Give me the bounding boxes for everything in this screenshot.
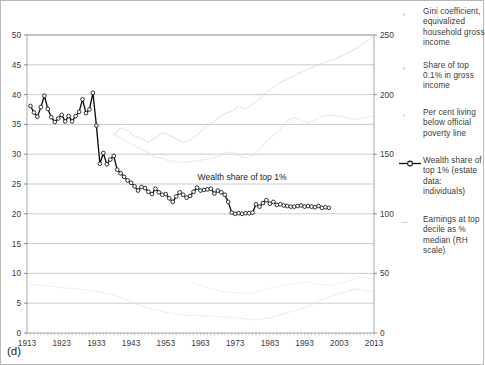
- chart-series-faint: [26, 284, 373, 321]
- legend-item-label: Wealth share of top 1% (estate data: ind…: [423, 156, 485, 198]
- chart-series-markers: [29, 91, 331, 216]
- legend-item[interactable]: Gini coefficient, equivalized household …: [399, 7, 485, 49]
- chart-series-faint: [113, 114, 373, 163]
- faint-dot-marker: [399, 111, 421, 120]
- x-axis-label: 2013: [365, 338, 384, 348]
- y-axis-label-left: 40: [12, 90, 22, 100]
- x-axis-label: 2003: [330, 338, 349, 348]
- faint-dot-marker: [399, 64, 421, 73]
- y-axis-label-left: 0: [16, 328, 21, 338]
- x-axis-label: 1933: [87, 338, 106, 348]
- y-axis-label-left: 5: [16, 298, 21, 308]
- legend-item-label: Share of top 0.1% in gross income: [423, 61, 485, 92]
- y-axis-label-right: 50: [380, 268, 390, 278]
- legend-item[interactable]: Per cent living below official poverty l…: [399, 108, 485, 139]
- faint-dot-marker: [399, 10, 421, 19]
- y-axis-label-left: 20: [12, 209, 22, 219]
- x-axis-label: 1983: [261, 338, 280, 348]
- y-axis-label-left: 35: [12, 119, 22, 129]
- chart-annotation: Wealth share of top 1%: [198, 172, 288, 182]
- y-axis-label-right: 100: [380, 209, 394, 219]
- chart-series-faint: [113, 37, 373, 143]
- x-axis-label: 1953: [157, 338, 176, 348]
- chart-legend: Gini coefficient, equivalized household …: [399, 7, 485, 265]
- panel-label: (d): [7, 345, 21, 357]
- y-axis-label-left: 25: [12, 179, 22, 189]
- y-axis-label-left: 50: [12, 30, 22, 40]
- chart-series-line: [30, 93, 328, 214]
- legend-item-label: Per cent living below official poverty l…: [423, 108, 485, 139]
- legend-item-label: Gini coefficient, equivalized household …: [423, 7, 485, 49]
- x-axis-label: 1963: [191, 338, 210, 348]
- faint-dash-marker: [399, 218, 421, 227]
- x-axis-label: 1943: [122, 338, 141, 348]
- y-axis-label-left: 45: [12, 60, 22, 70]
- y-axis-label-left: 10: [12, 268, 22, 278]
- x-axis-label: 1923: [52, 338, 71, 348]
- legend-item-label: Earnings at top decile as % median (RH s…: [423, 215, 485, 257]
- y-axis-label-left: 30: [12, 149, 22, 159]
- y-axis-label-right: 200: [380, 90, 394, 100]
- circle-line-marker: [399, 159, 421, 168]
- legend-item[interactable]: Wealth share of top 1% (estate data: ind…: [399, 156, 485, 198]
- legend-item[interactable]: Earnings at top decile as % median (RH s…: [399, 215, 485, 257]
- x-axis-label: 1993: [295, 338, 314, 348]
- y-axis-label-right: 0: [380, 328, 385, 338]
- y-axis-label-right: 250: [380, 30, 394, 40]
- y-axis-label-right: 150: [380, 149, 394, 159]
- legend-item[interactable]: Share of top 0.1% in gross income: [399, 61, 485, 92]
- x-axis-label: 1973: [226, 338, 245, 348]
- y-axis-label-left: 15: [12, 239, 22, 249]
